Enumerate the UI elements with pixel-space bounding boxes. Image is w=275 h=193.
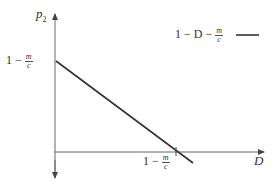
line-1-minus-D-minus-m-over-c: [56, 61, 193, 163]
diagram-canvas: [0, 0, 275, 193]
y-axis-label: p2: [36, 6, 47, 24]
x-axis-label: D: [254, 153, 263, 169]
y-intercept-label: 1 − mc: [6, 53, 33, 70]
legend-label: 1 − D − mc: [175, 27, 223, 44]
x-intercept-label: 1 − mc: [143, 154, 170, 171]
